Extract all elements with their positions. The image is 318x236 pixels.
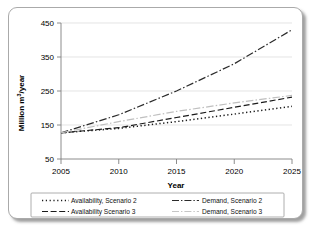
legend-label-0: Availability, Scenario 2 [71,197,137,205]
y-axis-title-text: Million m [17,97,26,132]
x-tick-2015: 2015 [168,167,186,176]
series-line-availability-scenario-3 [61,97,292,133]
y-axis-title: Million m3/year [16,75,26,131]
y-tick-350: 350 [41,53,55,62]
gridlines [61,23,292,125]
series-layer [61,30,292,133]
legend-label-2: Availability Scenario 3 [71,208,136,216]
x-tick-2005: 2005 [52,167,70,176]
x-tick-2025: 2025 [283,167,301,176]
axes [57,23,292,164]
chart-figure-frame: Million m3/year 450 350 250 150 50 [8,7,303,219]
series-line-demand-scenario-3 [61,95,292,132]
x-axis-title: Year [168,181,185,190]
x-tick-2020: 2020 [225,167,243,176]
x-tick-2010: 2010 [110,167,128,176]
legend-label-3: Demand, Scenario 3 [202,208,262,215]
legend-entry-availability-scenario-2[interactable]: Availability, Scenario 2 [42,197,137,205]
legend-entry-availability-scenario-3[interactable]: Availability Scenario 3 [42,208,136,216]
series-line-availability-scenario-2 [61,106,292,133]
legend-label-1: Demand, Scenario 2 [202,197,262,204]
legend-entry-demand-scenario-2[interactable]: Demand, Scenario 2 [172,197,262,204]
y-tick-250: 250 [41,87,55,96]
y-tick-450: 450 [41,19,55,28]
x-tick-labels: 2005 2010 2015 2020 2025 [52,167,301,176]
legend-entry-demand-scenario-3[interactable]: Demand, Scenario 3 [172,208,262,215]
y-tick-50: 50 [45,155,54,164]
y-axis-title-group: Million m3/year [16,75,26,131]
line-chart: Million m3/year 450 350 250 150 50 [9,8,302,218]
y-tick-150: 150 [41,121,55,130]
y-tick-labels: 450 350 250 150 50 [41,19,55,164]
legend: Availability, Scenario 2 Demand, Scenari… [31,193,284,217]
